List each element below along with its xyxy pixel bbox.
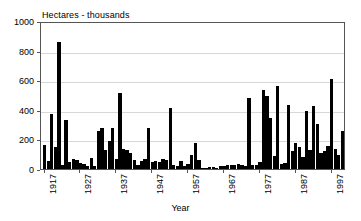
x-tick-mark (187, 170, 188, 173)
x-tick-mark (295, 170, 296, 173)
x-tick-mark (259, 170, 260, 173)
x-axis: 191719271937194719571967197719871997 (0, 0, 361, 221)
x-tick-label: 1927 (83, 174, 93, 194)
x-tick-label: 1997 (335, 174, 345, 194)
x-tick-mark (79, 170, 80, 173)
x-tick-label: 1967 (227, 174, 237, 194)
x-tick-mark (223, 170, 224, 173)
x-tick-mark (44, 170, 45, 173)
x-tick-label: 1957 (191, 174, 201, 194)
x-tick-mark (115, 170, 116, 173)
x-tick-label: 1987 (299, 174, 309, 194)
x-tick-label: 1947 (155, 174, 165, 194)
x-axis-title: Year (0, 203, 361, 213)
x-tick-label: 1977 (263, 174, 273, 194)
x-tick-mark (151, 170, 152, 173)
x-tick-mark (331, 170, 332, 173)
chart-figure: Hectares - thousands 10008006004002000 1… (0, 0, 361, 221)
x-tick-label: 1937 (119, 174, 129, 194)
x-tick-label: 1917 (48, 174, 58, 194)
